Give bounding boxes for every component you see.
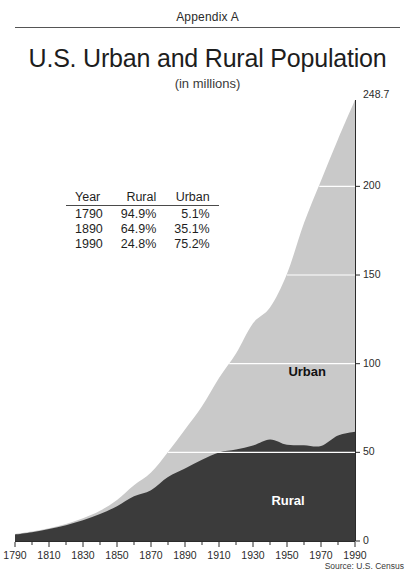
y-axis-tick-label: 150: [363, 268, 381, 280]
y-axis-tick-label: 200: [363, 179, 381, 191]
y-axis-tick-label: 50: [363, 445, 375, 457]
area-series-group: [15, 100, 355, 541]
x-axis-tick-label: 1990: [335, 549, 375, 561]
chart-page: Appendix A U.S. Urban and Rural Populati…: [0, 0, 415, 584]
y-axis-tick-label: 100: [363, 357, 381, 369]
y-axis-tick-label: 0: [363, 534, 369, 546]
y-axis-max-label: 248.7: [363, 88, 389, 100]
stacked-area-plot: [0, 0, 415, 584]
source-note: Source: U.S. Census: [0, 561, 404, 571]
series-label-urban: Urban: [288, 364, 326, 379]
series-label-rural: Rural: [271, 493, 304, 508]
